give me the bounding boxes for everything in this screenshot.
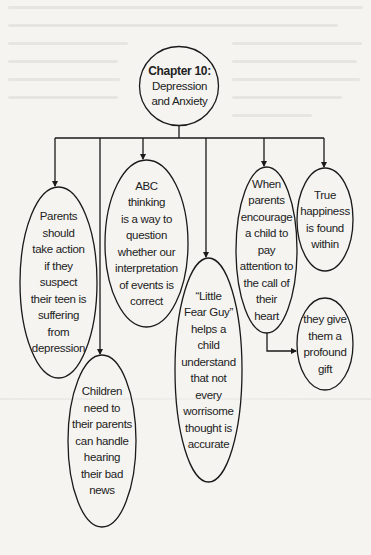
node-little-fear-guy: “Little Fear Guy” helps a child understa…	[175, 258, 242, 482]
node-text: When parents encourage a child to pay at…	[240, 176, 293, 325]
root-node: Chapter 10: Depression and Anxiety	[140, 47, 219, 125]
edge-call-of-heart-profound-gift	[267, 333, 296, 351]
root-title: Chapter 10:	[148, 63, 211, 80]
node-children-bad-news: Children need to their parents can handl…	[68, 355, 136, 527]
node-parents-action: Parents should take action if they suspe…	[20, 187, 97, 378]
node-text: Children need to their parents can handl…	[72, 383, 132, 499]
node-text: “Little Fear Guy” helps a child understa…	[181, 288, 236, 453]
node-profound-gift: they give them a profound gift	[297, 298, 353, 390]
node-true-happiness: True happiness is found within	[297, 168, 353, 271]
node-text: True happiness is found within	[300, 187, 350, 253]
node-text: Parents should take action if they suspe…	[31, 208, 87, 357]
node-call-of-heart: When parents encourage a child to pay at…	[236, 167, 297, 333]
root-subtitle: Depression and Anxiety	[151, 79, 207, 109]
node-text: ABC thinking is a way to question whethe…	[115, 178, 178, 310]
node-text: they give them a profound gift	[303, 311, 346, 377]
